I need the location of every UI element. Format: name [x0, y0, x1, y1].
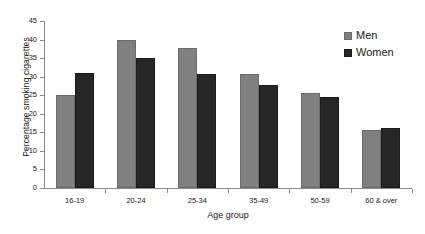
y-axis-tick-label: 15: [18, 128, 37, 136]
bar-women-20-24: [136, 58, 155, 188]
x-axis-title: Age group: [44, 210, 412, 221]
y-axis-tick-label: 25: [18, 91, 37, 99]
y-axis-tick-label: 40: [18, 36, 37, 44]
x-axis-category-label: 35-49: [228, 196, 289, 205]
bar-men-35-49: [240, 74, 259, 188]
bar-men-20-24: [117, 40, 136, 188]
x-axis-category-label: 60 & over: [351, 196, 412, 205]
legend-label-men: Men: [356, 29, 377, 42]
legend-swatch-men-icon: [344, 32, 352, 40]
bar-men-50-59: [301, 93, 320, 188]
bar-women-60-over: [381, 128, 400, 188]
y-axis-tick-label: 5: [18, 165, 37, 173]
x-axis-category-label: 16-19: [44, 196, 105, 205]
legend-item-men: Men: [344, 27, 422, 44]
bar-women-50-59: [320, 97, 339, 188]
bar-women-16-19: [75, 73, 94, 188]
bar-chart: Percentage smoking cigarettes 4540353025…: [0, 0, 425, 234]
y-axis-tick-label: 20: [18, 110, 37, 118]
bar-men-16-19: [56, 95, 75, 188]
y-axis-tick: [40, 188, 44, 189]
y-axis-tick-label: 35: [18, 54, 37, 62]
chart-legend: Men Women: [344, 27, 422, 61]
x-axis-tick: [289, 189, 290, 193]
y-axis-tick-label: 0: [18, 184, 37, 192]
y-axis-tick-label: 10: [18, 147, 37, 155]
bar-men-60-over: [362, 130, 381, 188]
bar-women-35-49: [259, 85, 278, 188]
legend-item-women: Women: [344, 44, 422, 61]
x-axis-tick: [228, 189, 229, 193]
x-axis-category-label: 20-24: [105, 196, 166, 205]
bar-men-25-34: [178, 48, 197, 188]
x-axis-tick: [351, 189, 352, 193]
x-axis-tick: [105, 189, 106, 193]
y-axis-tick-label: 45: [18, 17, 37, 25]
x-axis-tick: [412, 189, 413, 193]
bar-women-25-34: [197, 74, 216, 188]
x-axis-tick: [167, 189, 168, 193]
x-axis-category-label: 25-34: [167, 196, 228, 205]
legend-swatch-women-icon: [344, 49, 352, 57]
x-axis-category-label: 50-59: [289, 196, 350, 205]
legend-label-women: Women: [356, 46, 394, 59]
y-axis-tick-label: 30: [18, 73, 37, 81]
